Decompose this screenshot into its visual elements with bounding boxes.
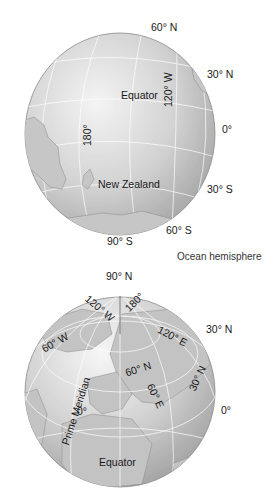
ocean-label-60s: 60° S xyxy=(166,225,192,236)
ocean-label-180: 180° xyxy=(82,124,93,146)
ocean-label-90s: 90° S xyxy=(107,236,133,247)
ocean-label-equator: Equator xyxy=(121,90,158,101)
ocean-label-60n: 60° N xyxy=(151,22,177,33)
ocean-label-30n: 30° N xyxy=(207,69,233,80)
ocean-label-120w: 120° W xyxy=(163,72,174,107)
ocean-label-30s: 30° S xyxy=(207,184,233,195)
land-label-equator: Equator xyxy=(99,457,136,468)
land-label-0-meridian: 0° xyxy=(77,406,87,417)
ocean-label-0: 0° xyxy=(222,124,232,135)
ocean-label-new-zealand: New Zealand xyxy=(98,179,160,190)
ocean-hemisphere-caption: Ocean hemisphere xyxy=(177,251,262,262)
land-label-90n: 90° N xyxy=(106,271,132,282)
ocean-hemisphere-globe xyxy=(22,29,218,239)
land-label-0: 0° xyxy=(221,405,231,416)
land-label-30n-edge: 30° N xyxy=(206,324,232,335)
ocean-globe-graphic xyxy=(22,29,218,239)
